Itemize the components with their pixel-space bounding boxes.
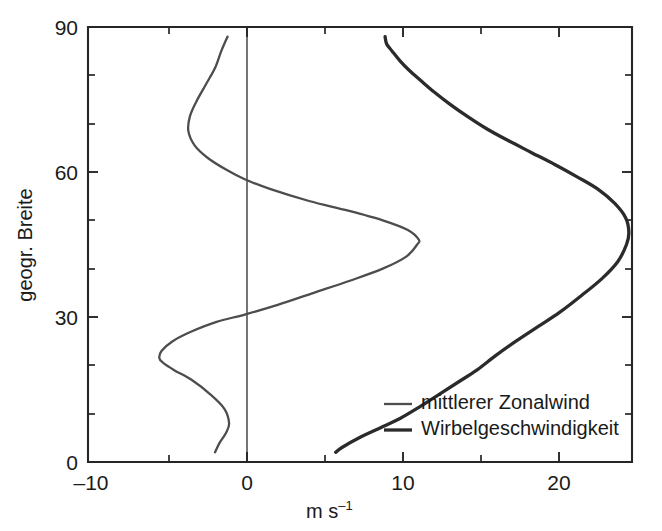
x-axis-title: m s–1 <box>306 498 353 522</box>
x-ticklabel-10: 10 <box>391 471 414 494</box>
y-axis-title: geogr. Breite <box>14 188 36 301</box>
x-tick-labels: –10 0 10 20 <box>73 471 570 494</box>
x-ticklabel-minus10: –10 <box>73 471 108 494</box>
y-ticklabel-30: 30 <box>55 306 78 329</box>
svg-text:m s–1: m s–1 <box>306 498 353 522</box>
data-series-group <box>159 37 629 453</box>
x-axis-title-text: m s <box>306 500 338 522</box>
legend-label-wirbelgeschwindigkeit: Wirbelgeschwindigkeit <box>421 417 619 439</box>
x-ticklabel-0: 0 <box>241 471 253 494</box>
line-chart: 0 30 60 90 –10 0 10 20 m s–1 geogr. Brei… <box>0 0 662 531</box>
y-ticklabel-90: 90 <box>55 16 78 39</box>
chart-figure: 0 30 60 90 –10 0 10 20 m s–1 geogr. Brei… <box>0 0 662 531</box>
legend-label-mittlerer-zonalwind: mittlerer Zonalwind <box>421 391 590 413</box>
y-axis-title-text: geogr. Breite <box>14 188 36 301</box>
y-ticklabel-60: 60 <box>55 161 78 184</box>
series-wirbelgeschwindigkeit <box>336 37 629 453</box>
x-ticklabel-20: 20 <box>547 471 570 494</box>
series-mittlerer-zonalwind <box>159 37 419 453</box>
x-axis-title-exponent: –1 <box>338 498 352 513</box>
legend: mittlerer Zonalwind Wirbelgeschwindigkei… <box>384 391 619 439</box>
y-tick-labels: 0 30 60 90 <box>55 16 78 474</box>
